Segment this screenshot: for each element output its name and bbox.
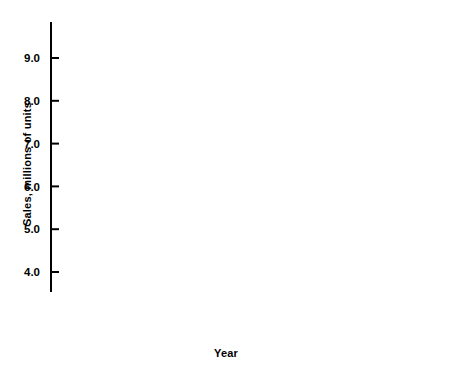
sales-line-chart: 4.05.06.07.08.09.0 Sales, millions of un… [0,0,452,368]
x-axis-label-wrapper: Year [0,343,452,361]
y-axis-label-wrapper: Sales, millions of units [17,84,35,244]
chart-canvas: 4.05.06.07.08.09.0 [0,0,452,368]
x-axis-label: Year [214,347,238,359]
chart-background [0,0,452,368]
y-tick-label: 9.0 [24,52,40,64]
y-axis-label: Sales, millions of units [21,102,33,226]
y-tick-label: 4.0 [24,266,40,278]
